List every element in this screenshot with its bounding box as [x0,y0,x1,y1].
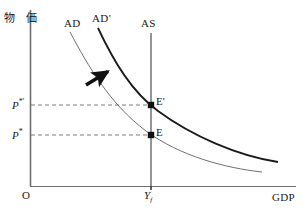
x-axis-label: GDP [272,192,295,203]
price-superscript-low: * [19,127,23,136]
diagram-canvas [0,0,306,208]
output-subscript: f [150,196,152,204]
point-label-e-prime: E' [156,96,165,107]
y-axis-label: 物 価 [4,13,42,24]
point-e-prime [148,102,154,108]
output-level-label: Yf [144,190,152,204]
price-label-high: P*' [12,98,24,111]
as-curve-label: AS [141,18,156,29]
price-symbol-low: P [12,129,19,141]
shift-arrow-icon [86,72,108,86]
point-label-e: E [156,127,163,138]
price-label-low: P* [12,128,23,141]
point-e [148,132,154,138]
ad-curve-label: AD [64,18,81,29]
ad-prime-curve [98,28,278,162]
price-symbol-high: P [12,99,19,111]
ad-prime-curve-label: AD' [92,13,111,24]
origin-label: O [22,190,30,201]
price-superscript-high: *' [19,97,24,106]
ad-as-diagram: 物 価 AD AD' AS P*' P* E' E O Yf GDP [0,0,306,208]
